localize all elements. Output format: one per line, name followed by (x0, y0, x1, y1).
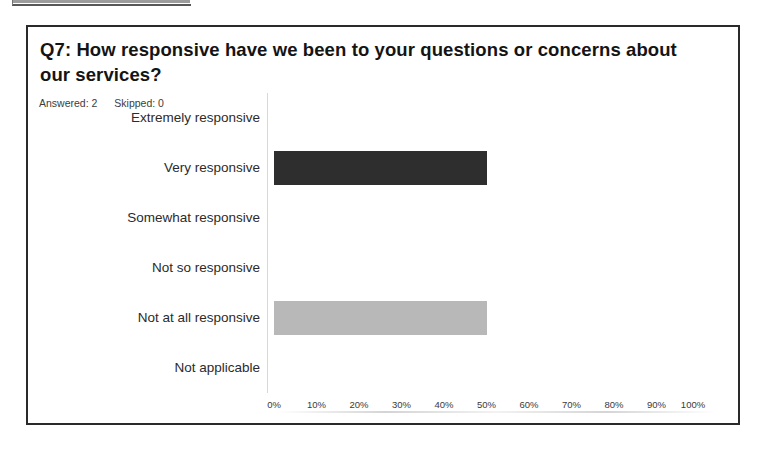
value-axis-ticks: 0%10%20%30%40%50%60%70%80%90%100% (268, 393, 738, 417)
category-label: Extremely responsive (30, 110, 260, 126)
bar-1 (274, 151, 487, 185)
x-tick-label: 60% (519, 399, 538, 410)
x-tick-label: 70% (562, 399, 581, 410)
x-tick-label: 20% (349, 399, 368, 410)
category-label: Very responsive (30, 160, 260, 176)
category-label: Not applicable (30, 360, 260, 376)
x-tick-label: 100% (681, 399, 705, 410)
category-axis-labels: Extremely responsiveVery responsiveSomew… (28, 93, 260, 393)
x-tick-label: 40% (434, 399, 453, 410)
category-label: Not at all responsive (30, 310, 260, 326)
page-title: Q7: How responsive have we been to your … (40, 37, 690, 87)
x-tick-label: 90% (647, 399, 666, 410)
x-tick-label: 0% (267, 399, 281, 410)
category-label: Not so responsive (30, 260, 260, 276)
x-tick-label: 50% (477, 399, 496, 410)
bar-4 (274, 301, 487, 335)
category-label: Somewhat responsive (30, 210, 260, 226)
x-tick-label: 80% (604, 399, 623, 410)
bar-chart: Extremely responsiveVery responsiveSomew… (28, 93, 742, 427)
scan-edge-artifact (12, 0, 191, 6)
chart-bars (268, 93, 738, 393)
x-tick-label: 30% (392, 399, 411, 410)
x-tick-label: 10% (307, 399, 326, 410)
scan-smudge-artifact (276, 411, 716, 413)
survey-question-card: Q7: How responsive have we been to your … (26, 25, 740, 425)
